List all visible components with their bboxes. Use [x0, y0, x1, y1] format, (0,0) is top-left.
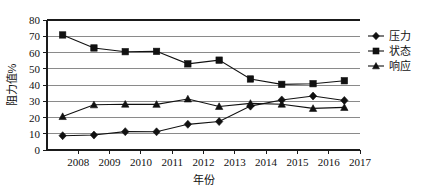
x-axis-tick-labels: 2008200920102011201220132014201520162017	[67, 156, 371, 168]
x-tick-label: 2016	[318, 156, 341, 168]
legend-label: 响应	[389, 59, 411, 72]
y-tick-label: 30	[29, 95, 41, 107]
y-tick-label: 60	[29, 47, 41, 59]
data-point-marker	[153, 48, 159, 54]
legend-item-1[interactable]: 压力	[368, 30, 411, 42]
data-point-marker	[184, 120, 191, 128]
data-point-marker	[91, 45, 97, 51]
series-1	[59, 92, 348, 140]
legend-item-3[interactable]: 响应	[368, 59, 411, 72]
y-tick-label: 10	[29, 128, 41, 140]
x-tick-label: 2009	[99, 156, 122, 168]
data-point-marker	[215, 118, 222, 126]
y-tick-label: 40	[29, 79, 41, 91]
series-2	[59, 32, 347, 88]
y-axis-title: 阻力值%	[6, 63, 18, 106]
data-point-marker	[341, 78, 347, 84]
data-point-marker	[59, 132, 66, 140]
series-3	[59, 95, 348, 119]
x-tick-label: 2008	[67, 156, 90, 168]
data-point-marker	[309, 92, 316, 100]
data-series	[59, 32, 348, 140]
x-tick-label: 2017	[349, 156, 372, 168]
series-line	[63, 96, 345, 136]
legend-label: 状态	[389, 44, 411, 57]
data-point-marker	[59, 113, 66, 120]
data-point-marker	[373, 32, 380, 40]
data-point-marker	[59, 32, 65, 38]
data-point-marker	[153, 128, 160, 136]
data-point-marker	[90, 131, 97, 139]
data-point-marker	[122, 48, 128, 54]
legend-label: 压力	[389, 30, 411, 42]
x-tick-label: 2013	[224, 156, 247, 168]
data-point-marker	[247, 76, 253, 82]
data-point-marker	[279, 81, 285, 87]
x-tick-label: 2012	[193, 156, 215, 168]
line-chart: 01020304050607080 2008200920102011201220…	[0, 0, 422, 194]
data-point-marker	[310, 81, 316, 87]
legend: 压力状态响应	[368, 30, 411, 72]
x-axis-title: 年份	[193, 173, 215, 186]
y-tick-label: 20	[29, 112, 41, 124]
y-tick-label: 70	[29, 30, 41, 42]
y-axis-tick-labels: 01020304050607080	[29, 14, 41, 156]
y-tick-label: 50	[29, 63, 41, 75]
data-point-marker	[185, 61, 191, 67]
data-point-marker	[216, 57, 222, 63]
y-tick-label: 80	[29, 14, 41, 26]
series-line	[63, 35, 345, 84]
data-point-marker	[373, 48, 379, 54]
chart-container: 01020304050607080 2008200920102011201220…	[0, 0, 422, 194]
x-tick-label: 2011	[161, 156, 183, 168]
x-tick-label: 2015	[286, 156, 309, 168]
legend-item-2[interactable]: 状态	[368, 44, 411, 57]
x-tick-label: 2010	[130, 156, 153, 168]
x-tick-label: 2014	[255, 156, 278, 168]
data-point-marker	[184, 95, 191, 102]
data-point-marker	[122, 128, 129, 136]
y-tick-label: 0	[35, 144, 41, 156]
